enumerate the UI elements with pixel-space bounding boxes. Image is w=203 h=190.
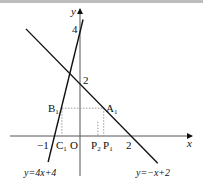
- svg-text:P2: P2: [91, 139, 101, 153]
- y-axis-label: y: [70, 5, 76, 17]
- x-tick-label-neg1: −1: [37, 139, 49, 151]
- svg-text:P1: P1: [103, 139, 113, 153]
- svg-text:B1: B1: [48, 102, 59, 116]
- point-label-A1: A1: [106, 102, 118, 116]
- point-label-C1: C1: [56, 139, 67, 153]
- point-label-B1: B1: [48, 102, 59, 116]
- y-tick-label-4: 4: [72, 23, 78, 35]
- y-tick-label-2: 2: [83, 74, 89, 86]
- line1-equation-label: y=4x+4: [23, 167, 56, 178]
- coordinate-diagram: y x O −1 2 2 4 A1 B1 C1 P1 P2 y=4x+4 y=−…: [0, 0, 203, 190]
- svg-text:C1: C1: [56, 139, 67, 153]
- x-axis-label: x: [186, 137, 192, 149]
- point-label-P2: P2: [91, 139, 101, 153]
- line2-equation-label: y=−x+2: [135, 167, 170, 178]
- point-label-P1: P1: [103, 139, 113, 153]
- origin-label: O: [70, 139, 78, 151]
- x-tick-label-2: 2: [126, 139, 132, 151]
- svg-text:A1: A1: [106, 102, 118, 116]
